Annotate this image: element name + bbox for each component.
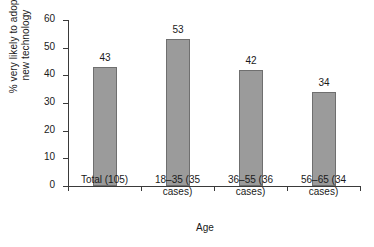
bar[interactable] [239, 70, 263, 186]
y-axis-title-line-2: new technology [20, 10, 32, 81]
y-axis-tick-label: 30 [33, 96, 55, 107]
x-axis-title: Age [0, 222, 374, 233]
y-axis-title: % very likely to adopt new technology [3, 0, 37, 125]
y-axis-tick: 20 [63, 131, 68, 132]
y-axis-tick-label: 40 [33, 68, 55, 79]
bar-value-label: 53 [153, 24, 203, 35]
x-axis-category-label: 56–65 (34cases) [279, 174, 369, 198]
y-axis-tick-label: 60 [33, 13, 55, 24]
y-axis-tick: 30 [63, 103, 68, 104]
y-axis-tick: 10 [63, 158, 68, 159]
y-axis-tick-label: 0 [33, 179, 55, 190]
y-axis-tick: 40 [63, 75, 68, 76]
x-axis-category-label-line: 56–65 (34 [279, 174, 369, 186]
y-axis-tick-label: 50 [33, 41, 55, 52]
x-axis-category-label-line: cases) [279, 186, 369, 198]
y-axis-line [68, 20, 69, 186]
bar-value-label: 43 [80, 52, 130, 63]
bar[interactable] [166, 39, 190, 186]
y-axis-tick-label: 20 [33, 124, 55, 135]
x-axis-title-text: Age [196, 222, 214, 233]
bar[interactable] [312, 92, 336, 186]
bar[interactable] [93, 67, 117, 186]
x-axis-tick [68, 186, 69, 191]
y-axis-tick-label: 10 [33, 151, 55, 162]
bar-value-label: 42 [226, 55, 276, 66]
y-axis-tick: 60 [63, 20, 68, 21]
bar-chart: % very likely to adopt new technology 01… [0, 0, 374, 247]
plot-area: 0102030405060 43534234 [68, 20, 360, 186]
y-axis-tick: 50 [63, 48, 68, 49]
y-axis-title-line-1: % very likely to adopt [8, 0, 20, 93]
bar-value-label: 34 [299, 77, 349, 88]
